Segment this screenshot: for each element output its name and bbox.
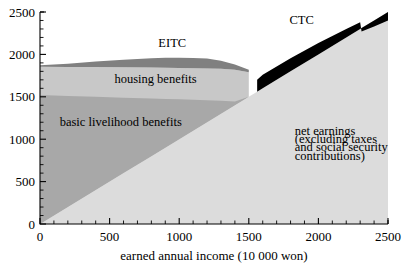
annotation-ctc: CTC	[290, 13, 314, 27]
x-axis-title: earned annual income (10 000 won)	[120, 248, 307, 263]
y-tick-label: 2500	[9, 5, 35, 20]
y-tick-label: 500	[16, 174, 36, 189]
x-tick-label: 500	[100, 229, 120, 244]
chart-container: 0500100015002000250005001000150020002500…	[0, 0, 402, 268]
annotation-basic-livelihood-benefits: basic livelihood benefits	[60, 115, 182, 129]
x-tick-label: 2000	[305, 229, 331, 244]
x-tick-label: 1000	[166, 229, 192, 244]
y-tick-label: 2000	[9, 47, 35, 62]
x-tick-label: 0	[37, 229, 44, 244]
annotation-housing-benefits: housing benefits	[114, 72, 196, 86]
y-tick-label: 0	[29, 217, 36, 232]
annotation-net-earnings-line4: contributions)	[295, 149, 365, 163]
annotation-eitc: EITC	[158, 36, 186, 50]
income-benefits-stacked-area-chart: 0500100015002000250005001000150020002500…	[0, 0, 402, 268]
y-tick-label: 1500	[9, 89, 35, 104]
y-tick-label: 1000	[9, 132, 35, 147]
x-tick-label: 2500	[375, 229, 401, 244]
x-tick-label: 1500	[236, 229, 262, 244]
